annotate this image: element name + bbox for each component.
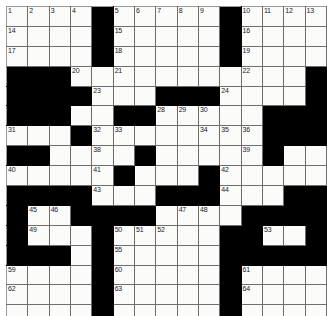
crossword-cell[interactable]: 15 [113, 26, 134, 46]
crossword-cell[interactable] [28, 285, 49, 305]
crossword-cell[interactable]: 60 [113, 265, 134, 285]
crossword-cell[interactable] [198, 26, 219, 46]
crossword-cell[interactable] [70, 166, 91, 186]
crossword-cell[interactable] [177, 285, 198, 305]
crossword-cell[interactable] [305, 285, 326, 305]
crossword-cell[interactable] [198, 305, 219, 316]
crossword-cell[interactable] [134, 245, 155, 265]
crossword-cell[interactable] [134, 126, 155, 146]
crossword-cell[interactable] [177, 305, 198, 316]
crossword-cell[interactable]: 36 [241, 126, 262, 146]
crossword-cell[interactable] [198, 265, 219, 285]
crossword-cell[interactable] [198, 225, 219, 245]
crossword-cell[interactable]: 45 [28, 205, 49, 225]
crossword-cell[interactable] [284, 146, 305, 166]
crossword-cell[interactable] [113, 305, 134, 316]
crossword-cell[interactable]: 6 [134, 7, 155, 27]
crossword-cell[interactable] [70, 106, 91, 126]
crossword-cell[interactable] [49, 285, 70, 305]
crossword-cell[interactable]: 16 [241, 26, 262, 46]
crossword-cell[interactable] [113, 186, 134, 206]
crossword-cell[interactable]: 12 [284, 7, 305, 27]
crossword-cell[interactable]: 22 [241, 66, 262, 86]
crossword-cell[interactable] [220, 205, 241, 225]
crossword-cell[interactable]: 11 [262, 7, 283, 27]
crossword-cell[interactable] [177, 126, 198, 146]
crossword-cell[interactable] [177, 265, 198, 285]
crossword-cell[interactable] [49, 126, 70, 146]
crossword-cell[interactable]: 13 [305, 7, 326, 27]
crossword-cell[interactable]: 18 [113, 46, 134, 66]
crossword-cell[interactable] [134, 26, 155, 46]
crossword-cell[interactable] [177, 245, 198, 265]
crossword-cell[interactable] [70, 146, 91, 166]
crossword-cell[interactable]: 64 [241, 285, 262, 305]
crossword-cell[interactable]: 55 [113, 245, 134, 265]
crossword-cell[interactable] [156, 305, 177, 316]
crossword-cell[interactable] [156, 245, 177, 265]
crossword-cell[interactable] [198, 245, 219, 265]
crossword-cell[interactable] [156, 66, 177, 86]
crossword-cell[interactable] [177, 46, 198, 66]
crossword-cell[interactable] [28, 126, 49, 146]
crossword-cell[interactable] [156, 46, 177, 66]
crossword-cell[interactable] [177, 166, 198, 186]
crossword-cell[interactable] [177, 66, 198, 86]
crossword-cell[interactable] [284, 225, 305, 245]
crossword-cell[interactable] [284, 66, 305, 86]
crossword-cell[interactable] [198, 146, 219, 166]
crossword-cell[interactable]: 8 [177, 7, 198, 27]
crossword-cell[interactable] [49, 46, 70, 66]
crossword-cell[interactable] [49, 265, 70, 285]
crossword-cell[interactable] [305, 166, 326, 186]
crossword-cell[interactable] [70, 305, 91, 316]
crossword-cell[interactable] [134, 46, 155, 66]
crossword-cell[interactable] [28, 46, 49, 66]
crossword-cell[interactable] [92, 106, 113, 126]
crossword-cell[interactable] [70, 26, 91, 46]
crossword-cell[interactable] [49, 146, 70, 166]
crossword-cell[interactable] [156, 166, 177, 186]
crossword-cell[interactable] [156, 26, 177, 46]
crossword-cell[interactable]: 63 [113, 285, 134, 305]
crossword-cell[interactable]: 17 [7, 46, 28, 66]
crossword-cell[interactable]: 42 [220, 166, 241, 186]
crossword-cell[interactable] [177, 146, 198, 166]
crossword-cell[interactable] [305, 305, 326, 316]
crossword-cell[interactable] [177, 225, 198, 245]
crossword-cell[interactable]: 35 [220, 126, 241, 146]
crossword-cell[interactable] [241, 106, 262, 126]
crossword-cell[interactable] [262, 166, 283, 186]
crossword-cell[interactable] [284, 285, 305, 305]
crossword-grid[interactable]: 1234567891011121314151617181920212223242… [6, 6, 327, 316]
crossword-cell[interactable] [262, 66, 283, 86]
crossword-cell[interactable] [134, 66, 155, 86]
crossword-cell[interactable]: 21 [113, 66, 134, 86]
crossword-cell[interactable] [134, 166, 155, 186]
crossword-cell[interactable]: 47 [177, 205, 198, 225]
crossword-cell[interactable] [241, 305, 262, 316]
crossword-cell[interactable]: 41 [92, 166, 113, 186]
crossword-cell[interactable]: 24 [220, 86, 241, 106]
crossword-cell[interactable]: 30 [198, 106, 219, 126]
crossword-cell[interactable] [177, 26, 198, 46]
crossword-cell[interactable] [7, 305, 28, 316]
crossword-cell[interactable]: 2 [28, 7, 49, 27]
crossword-cell[interactable]: 49 [28, 225, 49, 245]
crossword-cell[interactable] [49, 225, 70, 245]
crossword-cell[interactable] [305, 26, 326, 46]
crossword-cell[interactable]: 53 [262, 225, 283, 245]
crossword-cell[interactable]: 62 [7, 285, 28, 305]
crossword-cell[interactable]: 23 [92, 86, 113, 106]
crossword-cell[interactable] [241, 186, 262, 206]
crossword-cell[interactable] [113, 86, 134, 106]
crossword-cell[interactable]: 46 [49, 205, 70, 225]
crossword-cell[interactable] [220, 106, 241, 126]
crossword-cell[interactable]: 44 [220, 186, 241, 206]
crossword-cell[interactable]: 19 [241, 46, 262, 66]
crossword-cell[interactable] [28, 26, 49, 46]
crossword-cell[interactable] [28, 265, 49, 285]
crossword-cell[interactable] [198, 66, 219, 86]
crossword-cell[interactable] [284, 26, 305, 46]
crossword-cell[interactable] [70, 265, 91, 285]
